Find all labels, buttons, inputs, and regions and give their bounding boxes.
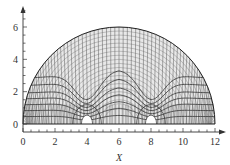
x-tick-label: 0 [21, 136, 26, 147]
x-tick-label: 6 [117, 136, 122, 147]
y-tick-label: 2 [13, 86, 18, 97]
y-tick-label: 0 [13, 119, 18, 130]
x-tick-label: 10 [178, 136, 188, 147]
mesh-plot: 0246810120246X [0, 0, 230, 165]
mesh-lines [23, 27, 215, 124]
x-axis-label: X [115, 152, 123, 163]
x-tick-label: 8 [149, 136, 154, 147]
x-tick-label: 4 [85, 136, 90, 147]
y-tick-label: 6 [13, 22, 18, 33]
y-tick-label: 4 [13, 54, 18, 65]
x-tick-label: 12 [210, 136, 220, 147]
x-tick-label: 2 [53, 136, 58, 147]
